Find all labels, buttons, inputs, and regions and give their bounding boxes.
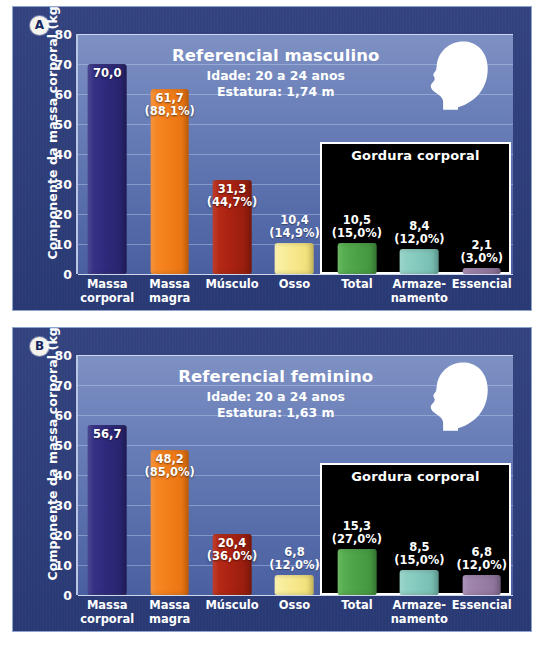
bar-essencial[interactable]: [462, 268, 501, 274]
bar-massa[interactable]: [88, 64, 127, 274]
bar-percent: (36,0%): [207, 550, 257, 563]
bar-slot-1[interactable]: 70,0: [76, 34, 138, 274]
bar-value-label-4: 10,4(14,9%): [269, 214, 319, 240]
bar-slot-3[interactable]: 31,3(44,7%): [201, 34, 263, 274]
bar-value-label-7: 2,1(3,0%): [461, 239, 503, 265]
figure-root: A Componente da massa corporal (kg) 8070…: [0, 0, 551, 657]
bar-slot-1[interactable]: 56,7: [76, 355, 138, 595]
y-tick-50: 50: [55, 438, 72, 453]
category-label-4: Osso: [263, 278, 325, 292]
category-label-line2: magra: [138, 613, 200, 627]
category-label-1: Massacorporal: [76, 599, 138, 626]
bar-slot-7[interactable]: 6,8(12,0%): [451, 355, 513, 595]
category-label-line1: Osso: [263, 278, 325, 292]
bar-slot-5[interactable]: 10,5(15,0%): [326, 34, 388, 274]
category-label-line1: Massa: [138, 278, 200, 292]
bar-value-label-2: 48,2(85,0%): [144, 453, 194, 479]
bar-value-label-7: 6,8(12,0%): [457, 546, 507, 572]
category-label-3: Músculo: [201, 599, 263, 613]
category-label-6: Armaze-namento: [388, 599, 450, 626]
category-label-5: Total: [326, 278, 388, 292]
category-label-line1: Armaze-: [388, 278, 450, 292]
bar-value-label-5: 15,3(27,0%): [332, 520, 382, 546]
bar-percent: (88,1%): [144, 105, 194, 118]
category-label-7: Essencial: [451, 278, 513, 292]
category-label-line1: Massa: [76, 599, 138, 613]
bar-slot-2[interactable]: 48,2(85,0%): [138, 355, 200, 595]
category-label-line1: Total: [326, 278, 388, 292]
category-labels-b: MassacorporalMassamagraMúsculoOssoTotalA…: [76, 599, 513, 643]
bar-value-label-1: 70,0: [93, 67, 121, 80]
bar-value: 56,7: [93, 428, 121, 441]
category-label-4: Osso: [263, 599, 325, 613]
bar-percent: (44,7%): [207, 196, 257, 209]
bar-value-label-3: 31,3(44,7%): [207, 183, 257, 209]
bar-percent: (27,0%): [332, 533, 382, 546]
y-tick-20: 20: [55, 207, 72, 222]
bar-value-label-5: 10,5(15,0%): [332, 214, 382, 240]
bar-value-label-6: 8,4(12,0%): [394, 220, 444, 246]
gridline-0: [78, 595, 513, 596]
y-tick-10: 10: [55, 237, 72, 252]
bar-essencial[interactable]: [462, 575, 501, 595]
bottom-strip: [0, 643, 551, 657]
category-label-line1: Essencial: [451, 599, 513, 613]
y-tick-60: 60: [55, 87, 72, 102]
y-tick-30: 30: [55, 498, 72, 513]
category-label-line2: corporal: [76, 613, 138, 627]
bar-total[interactable]: [338, 549, 377, 595]
y-tick-40: 40: [55, 468, 72, 483]
bar-slot-4[interactable]: 6,8(12,0%): [263, 355, 325, 595]
bar-slot-3[interactable]: 20,4(36,0%): [201, 355, 263, 595]
bar-value-label-6: 8,5(15,0%): [394, 541, 444, 567]
plot-b: 80706050403020100 Gordura corporalRefere…: [76, 355, 511, 631]
bar-slot-2[interactable]: 61,7(88,1%): [138, 34, 200, 274]
bar-percent: (85,0%): [144, 466, 194, 479]
bar-total[interactable]: [338, 243, 377, 275]
category-label-line1: Músculo: [201, 278, 263, 292]
bar-percent: (3,0%): [461, 252, 503, 265]
bar-percent: (12,0%): [394, 233, 444, 246]
category-label-5: Total: [326, 599, 388, 613]
category-label-2: Massamagra: [138, 278, 200, 305]
panel-b: B Componente da massa corporal (kg) 8070…: [12, 327, 532, 632]
category-label-line2: corporal: [76, 292, 138, 306]
plot-a: 80706050403020100 Gordura corporalRefere…: [76, 34, 511, 310]
y-tick-60: 60: [55, 408, 72, 423]
bar-slot-5[interactable]: 15,3(27,0%): [326, 355, 388, 595]
bar-value-label-3: 20,4(36,0%): [207, 537, 257, 563]
y-axis-title-a: Componente da massa corporal (kg): [45, 10, 60, 260]
panel-a: A Componente da massa corporal (kg) 8070…: [12, 6, 532, 311]
bar-percent: (12,0%): [457, 559, 507, 572]
category-label-line1: Essencial: [451, 278, 513, 292]
bar-percent: (15,0%): [394, 554, 444, 567]
y-tick-50: 50: [55, 117, 72, 132]
y-tick-70: 70: [55, 57, 72, 72]
bar-armaze[interactable]: [400, 249, 439, 274]
bar-value: 70,0: [93, 67, 121, 80]
bar-slot-6[interactable]: 8,5(15,0%): [388, 355, 450, 595]
bar-slot-6[interactable]: 8,4(12,0%): [388, 34, 450, 274]
bars-a: Gordura corporalReferencial masculinoIda…: [76, 34, 513, 274]
bar-value-label-1: 56,7: [93, 428, 121, 441]
category-label-line1: Massa: [76, 278, 138, 292]
bar-percent: (12,0%): [269, 559, 319, 572]
bars-b: Gordura corporalReferencial femininoIdad…: [76, 355, 513, 595]
bar-osso[interactable]: [275, 575, 314, 595]
bar-osso[interactable]: [275, 243, 314, 274]
y-tick-80: 80: [55, 348, 72, 363]
bar-armaze[interactable]: [400, 570, 439, 596]
y-tick-10: 10: [55, 558, 72, 573]
bar-slot-7[interactable]: 2,1(3,0%): [451, 34, 513, 274]
category-label-line2: namento: [388, 292, 450, 306]
bar-massa[interactable]: [88, 425, 127, 595]
y-tick-0: 0: [63, 588, 72, 603]
category-label-3: Músculo: [201, 278, 263, 292]
y-tick-20: 20: [55, 528, 72, 543]
bar-slot-4[interactable]: 10,4(14,9%): [263, 34, 325, 274]
category-label-1: Massacorporal: [76, 278, 138, 305]
gridline-0: [78, 274, 513, 275]
bar-value-label-2: 61,7(88,1%): [144, 92, 194, 118]
category-label-7: Essencial: [451, 599, 513, 613]
y-tick-40: 40: [55, 147, 72, 162]
